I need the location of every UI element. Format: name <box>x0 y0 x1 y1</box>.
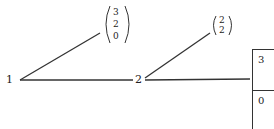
partial-table: 3 0 <box>252 49 274 129</box>
edge-2-to-vector-2 <box>145 33 210 78</box>
vector-1-left-paren <box>106 6 110 43</box>
vector-2: 2 2 <box>218 16 226 35</box>
node-2-label: 2 <box>134 74 143 85</box>
table-row: 0 <box>253 91 274 129</box>
edge-2-to-table <box>145 79 250 80</box>
vector-1-entry-2: 0 <box>113 32 119 41</box>
table-cell: 0 <box>258 95 264 106</box>
table-row: 3 <box>253 50 274 91</box>
table-cell: 3 <box>258 54 264 65</box>
vector-2-entry-1: 2 <box>219 26 225 35</box>
vector-1-right-paren <box>125 6 129 43</box>
vector-2-entries: 2 2 <box>218 16 226 35</box>
vector-1-entries: 3 2 0 <box>112 8 120 41</box>
edges-layer <box>0 0 274 129</box>
vector-2-right-paren <box>229 16 232 35</box>
vector-1-entry-0: 3 <box>113 8 119 17</box>
vector-1-entry-1: 2 <box>113 20 119 29</box>
vector-2-entry-0: 2 <box>219 16 225 25</box>
vector-2-left-paren <box>214 16 217 35</box>
node-1-label: 1 <box>5 74 14 85</box>
edge-1-to-vector-1 <box>20 33 100 80</box>
vector-1: 3 2 0 <box>112 8 120 41</box>
